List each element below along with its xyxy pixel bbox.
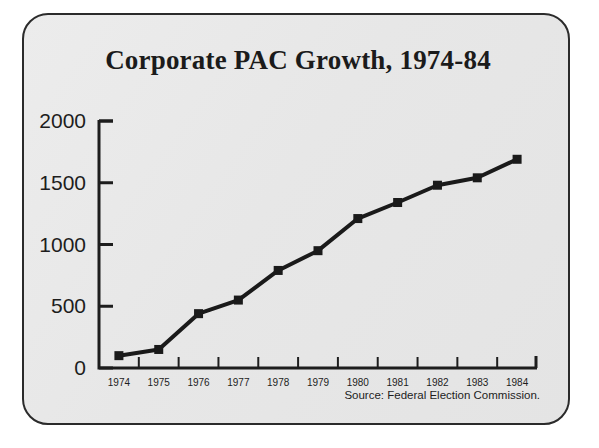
x-tick-label: 1976 (187, 377, 209, 388)
data-point-marker (274, 266, 283, 275)
data-point-marker (114, 351, 123, 360)
y-tick-label: 500 (51, 294, 86, 318)
data-line (119, 159, 517, 355)
x-tick-label: 1974 (108, 377, 130, 388)
axis-spine (99, 120, 537, 368)
y-tick-label: 1500 (39, 171, 86, 195)
y-tick-marks (99, 121, 113, 368)
page-title: Corporate PAC Growth, 1974-84 (24, 45, 572, 76)
x-tick-label: 1979 (307, 377, 329, 388)
x-tick-label: 1984 (506, 377, 528, 388)
y-tick-label: 2000 (39, 109, 86, 133)
data-point-marker (353, 214, 362, 223)
x-tick-label: 1978 (267, 377, 289, 388)
data-point-marker (154, 345, 163, 354)
x-tick-label: 1981 (387, 377, 409, 388)
x-tick-label: 1983 (466, 377, 488, 388)
x-tick-label: 1982 (426, 377, 448, 388)
data-point-marker (473, 173, 482, 182)
data-point-marker (513, 155, 522, 164)
y-tick-label: 0 (74, 356, 86, 380)
x-tick-marks (139, 357, 497, 368)
data-point-marker (314, 246, 323, 255)
x-tick-label: 1977 (227, 377, 249, 388)
data-markers (114, 155, 521, 360)
y-tick-label: 1000 (39, 233, 86, 257)
data-point-marker (234, 296, 243, 305)
data-point-marker (194, 309, 203, 318)
chart-canvas (97, 120, 539, 370)
source-note: Source: Federal Election Commission. (344, 389, 540, 401)
x-tick-label: 1975 (148, 377, 170, 388)
chart-card: Corporate PAC Growth, 1974-84 0500100015… (22, 13, 570, 425)
data-point-marker (393, 198, 402, 207)
data-point-marker (433, 181, 442, 190)
x-tick-label: 1980 (347, 377, 369, 388)
figure-root: Corporate PAC Growth, 1974-84 0500100015… (0, 0, 599, 448)
plot-area: 0500100015002000 19741975197619771978197… (97, 120, 539, 370)
